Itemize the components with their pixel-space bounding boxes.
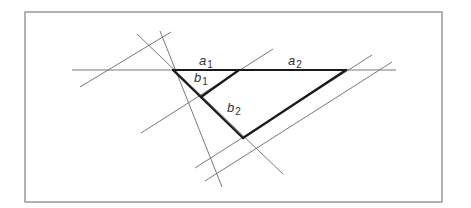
parallel-line-outer: [205, 62, 392, 181]
label-a2: a2: [288, 53, 302, 70]
parallel-line-upper-left: [80, 32, 171, 87]
segment-a2b2: [243, 70, 346, 138]
diagram-canvas: a1 a2 b1 b2: [0, 0, 471, 208]
label-a1: a1: [199, 53, 213, 70]
label-b1: b1: [194, 70, 208, 87]
label-b2: b2: [227, 100, 241, 117]
transversal-b-line: [137, 34, 283, 174]
